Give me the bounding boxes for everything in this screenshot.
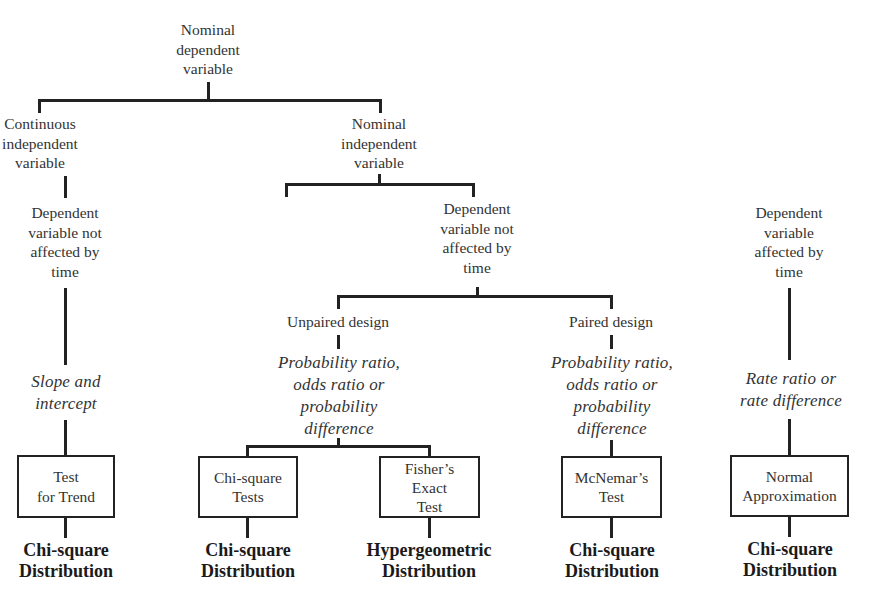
connector-line	[64, 176, 67, 198]
measure-paired-probability-ratio: Probability ratio, odds ratio or probabi…	[551, 352, 673, 440]
node-text: Chi-square	[19, 540, 113, 561]
node-text: Chi-square	[743, 539, 837, 560]
connector-line	[379, 99, 382, 113]
connector-line	[428, 518, 431, 538]
node-text: variable	[176, 59, 240, 79]
node-text: Distribution	[367, 561, 492, 582]
connector-line	[38, 99, 41, 113]
test-box-normal-approximation: Normal Approximation	[730, 455, 849, 517]
connector-line	[337, 335, 340, 349]
box-text: Normal	[766, 467, 813, 487]
node-text: independent	[341, 134, 417, 154]
connector-line	[38, 99, 381, 102]
node-unpaired-design: Unpaired design	[287, 312, 389, 332]
connector-line	[788, 517, 791, 537]
node-text: Chi-square	[201, 540, 295, 561]
node-text: Probability ratio,	[278, 352, 400, 374]
node-text: variable not	[28, 223, 102, 243]
node-text: Paired design	[569, 312, 653, 332]
distribution-chi-square-rate: Chi-square Distribution	[743, 539, 837, 581]
node-text: variable not	[440, 219, 514, 239]
node-text: Probability ratio,	[551, 352, 673, 374]
measure-slope-and-intercept: Slope and intercept	[31, 371, 100, 415]
node-text: Hypergeometric	[367, 540, 492, 561]
connector-line	[788, 419, 791, 456]
node-text: Nominal	[176, 20, 240, 40]
connector-line	[472, 183, 475, 197]
box-text: Test	[599, 487, 625, 507]
node-text: affected by	[28, 242, 102, 262]
node-text: time	[440, 258, 514, 278]
node-text: time	[28, 262, 102, 282]
node-text: dependent	[176, 40, 240, 60]
node-text: Continuous	[2, 114, 78, 134]
box-text: Chi-square	[214, 468, 282, 488]
distribution-chi-square-unpaired: Chi-square Distribution	[201, 540, 295, 582]
node-text: probability	[551, 396, 673, 418]
box-text: Test	[417, 497, 443, 516]
connector-line	[337, 295, 612, 298]
connector-line	[788, 288, 791, 360]
node-continuous-independent-variable: Continuous independent variable	[2, 114, 78, 173]
connector-line	[337, 295, 340, 309]
box-text: Test	[53, 467, 79, 487]
node-dependent-not-affected-by-time: Dependent variable not affected by time	[440, 199, 514, 277]
measure-unpaired-probability-ratio: Probability ratio, odds ratio or probabi…	[278, 352, 400, 440]
node-text: Dependent	[28, 203, 102, 223]
node-text: time	[755, 262, 824, 282]
node-text: Nominal	[341, 114, 417, 134]
node-text: Chi-square	[565, 540, 659, 561]
connector-line	[285, 183, 474, 186]
node-text: affected by	[755, 242, 824, 262]
node-text: Distribution	[743, 560, 837, 581]
connector-line	[610, 440, 613, 457]
node-text: Dependent	[440, 199, 514, 219]
distribution-chi-square-left: Chi-square Distribution	[19, 540, 113, 582]
node-text: odds ratio or	[551, 374, 673, 396]
node-paired-design: Paired design	[569, 312, 653, 332]
connector-line	[246, 445, 431, 448]
box-text: Fisher’s	[405, 459, 455, 478]
box-text: McNemar’s	[575, 468, 649, 488]
root-node-nominal-dependent-variable: Nominal dependent variable	[176, 20, 240, 79]
node-text: variable	[755, 223, 824, 243]
node-text: Distribution	[565, 561, 659, 582]
connector-line	[610, 295, 613, 309]
connector-line	[64, 288, 67, 365]
node-text: probability	[278, 396, 400, 418]
connector-line	[64, 518, 67, 538]
node-text: variable	[341, 153, 417, 173]
box-text: for Trend	[37, 487, 95, 507]
node-text: Rate ratio or	[740, 368, 842, 390]
test-box-mcnemars-test: McNemar’s Test	[561, 456, 662, 518]
connector-line	[64, 420, 67, 456]
measure-rate-ratio-or-difference: Rate ratio or rate difference	[740, 368, 842, 412]
box-text: Approximation	[742, 486, 837, 506]
node-text: Unpaired design	[287, 312, 389, 332]
node-text: rate difference	[740, 390, 842, 412]
node-text: independent	[2, 134, 78, 154]
node-dependent-affected-by-time: Dependent variable affected by time	[755, 203, 824, 281]
node-text: Distribution	[201, 561, 295, 582]
node-text: intercept	[31, 393, 100, 415]
node-nominal-independent-variable: Nominal independent variable	[341, 114, 417, 173]
node-text: difference	[551, 418, 673, 440]
distribution-chi-square-paired: Chi-square Distribution	[565, 540, 659, 582]
box-text: Exact	[412, 478, 447, 497]
node-left-dependent-not-affected-by-time: Dependent variable not affected by time	[28, 203, 102, 281]
connector-line	[610, 518, 613, 538]
node-text: affected by	[440, 238, 514, 258]
test-box-fishers-exact-test: Fisher’s Exact Test	[379, 456, 480, 518]
box-text: Tests	[232, 487, 264, 507]
connector-line	[610, 335, 613, 349]
node-text: variable	[2, 153, 78, 173]
test-box-chi-square-tests: Chi-square Tests	[198, 456, 298, 518]
node-text: Slope and	[31, 371, 100, 393]
connector-line	[246, 518, 249, 538]
node-text: Distribution	[19, 561, 113, 582]
node-text: Dependent	[755, 203, 824, 223]
node-text: difference	[278, 418, 400, 440]
connector-line	[285, 183, 288, 197]
distribution-hypergeometric: Hypergeometric Distribution	[367, 540, 492, 582]
node-text: odds ratio or	[278, 374, 400, 396]
